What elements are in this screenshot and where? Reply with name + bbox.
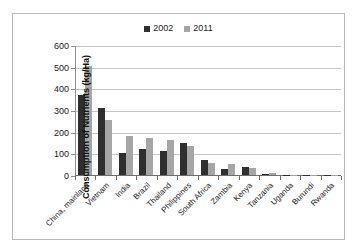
bar-2011[interactable] [105, 120, 112, 175]
x-axis-tick-mark [136, 176, 137, 180]
y-axis-tick-label: 0 [64, 171, 69, 181]
bar-2002[interactable] [201, 160, 208, 175]
bar-group [177, 45, 197, 175]
bar-2011[interactable] [187, 146, 194, 175]
x-axis-tick-mark [157, 176, 158, 180]
x-axis-tick-mark [341, 176, 342, 180]
bar-group [218, 45, 238, 175]
legend-label-2002: 2002 [153, 24, 173, 33]
bar-2002[interactable] [139, 149, 146, 175]
legend-entry-2002[interactable]: 2002 [144, 24, 173, 33]
bar-2011[interactable] [85, 66, 92, 175]
bar-group [321, 45, 341, 175]
bar-group [239, 45, 259, 175]
plot-area: 0100200300400500600 China, mainlandVietn… [75, 46, 341, 176]
x-axis-tick-mark [280, 176, 281, 180]
legend-swatch-2011 [184, 26, 190, 32]
bar-2011[interactable] [269, 173, 276, 175]
x-axis-tick-mark [95, 176, 96, 180]
y-axis-tick-label: 100 [54, 149, 69, 159]
x-axis-tick-mark [239, 176, 240, 180]
legend-label-2011: 2011 [193, 24, 212, 33]
x-axis-tick-mark [75, 176, 76, 180]
bar-2002[interactable] [119, 153, 126, 175]
x-axis-tick-mark [198, 176, 199, 180]
y-axis-tick-label: 200 [54, 128, 69, 138]
y-axis-tick-label: 300 [54, 106, 69, 116]
y-axis-tick-label: 400 [54, 84, 69, 94]
bar-2011[interactable] [249, 168, 256, 175]
legend-swatch-2002 [144, 26, 150, 32]
chart-frame: 2002 2011 0100200300400500600 China, mai… [12, 13, 345, 240]
bar-2011[interactable] [208, 163, 215, 175]
bar-group [300, 45, 320, 175]
x-axis-line [75, 175, 341, 176]
x-axis-category-label: China, mainland [44, 181, 91, 228]
bar-2011[interactable] [167, 140, 174, 175]
x-axis-tick-mark [259, 176, 260, 180]
bar-2011[interactable] [228, 164, 235, 175]
bar-2002[interactable] [160, 151, 167, 175]
x-axis-category-label: India [113, 181, 132, 200]
bar-group [95, 45, 115, 175]
bar-group [198, 45, 218, 175]
x-axis-tick-mark [300, 176, 301, 180]
bar-2011[interactable] [126, 136, 133, 175]
y-axis-tick-label: 600 [54, 41, 69, 51]
x-axis-category-label: Zambia [209, 181, 234, 206]
y-axis-tick-label: 500 [54, 63, 69, 73]
bar-group [136, 45, 156, 175]
bar-2002[interactable] [180, 143, 187, 175]
x-axis-tick-mark [321, 176, 322, 180]
bar-group [280, 45, 300, 175]
bar-2002[interactable] [98, 108, 105, 175]
bar-2011[interactable] [146, 138, 153, 175]
x-axis-tick-mark [116, 176, 117, 180]
bar-2002[interactable] [242, 167, 249, 175]
bar-2002[interactable] [221, 169, 228, 176]
legend-entry-2011[interactable]: 2011 [184, 24, 212, 33]
bar-group [75, 45, 95, 175]
bar-group [157, 45, 177, 175]
bar-2002[interactable] [78, 95, 85, 175]
chart-legend: 2002 2011 [13, 24, 344, 33]
x-axis-tick-mark [218, 176, 219, 180]
bar-group [116, 45, 136, 175]
bar-2002[interactable] [262, 174, 269, 175]
x-axis-tick-mark [177, 176, 178, 180]
bar-group [259, 45, 279, 175]
